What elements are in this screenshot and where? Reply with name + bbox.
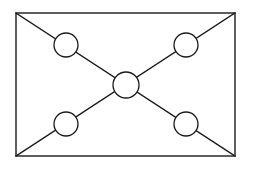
node-top-left-circle[interactable] — [54, 33, 78, 57]
node-bottom-right[interactable] — [174, 112, 198, 136]
node-bottom-left[interactable] — [54, 112, 78, 136]
node-center[interactable] — [113, 72, 139, 98]
node-center-circle[interactable] — [113, 72, 139, 98]
node-top-right-circle[interactable] — [174, 33, 198, 57]
node-top-right[interactable] — [174, 33, 198, 57]
node-top-left[interactable] — [54, 33, 78, 57]
node-diagram — [0, 0, 253, 171]
node-bottom-left-circle[interactable] — [54, 112, 78, 136]
node-bottom-right-circle[interactable] — [174, 112, 198, 136]
